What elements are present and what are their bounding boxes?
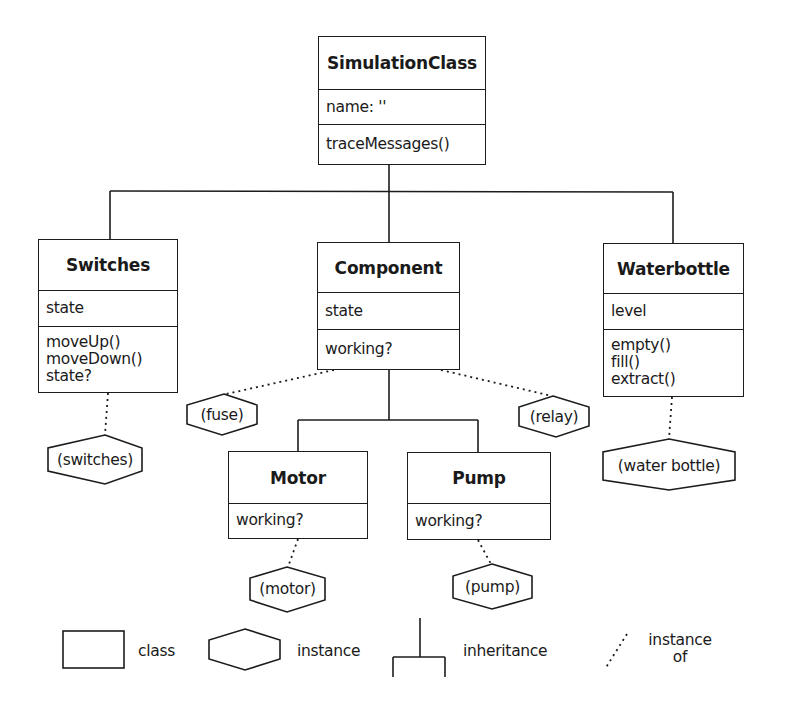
class-title: Component xyxy=(318,243,459,293)
method: state? xyxy=(46,368,177,385)
class-title: SimulationClass xyxy=(319,37,485,90)
attribute: state xyxy=(46,300,177,317)
method: moveDown() xyxy=(46,351,177,368)
class-title: Motor xyxy=(229,452,367,504)
method: fill() xyxy=(611,354,743,371)
instance-of-waterbottle xyxy=(669,397,672,439)
class-attributes: level xyxy=(604,294,743,330)
class-title: Waterbottle xyxy=(604,244,743,294)
instance-label-fuse: (fuse) xyxy=(187,404,257,425)
method: moveUp() xyxy=(46,334,177,351)
attribute: name: '' xyxy=(326,99,485,116)
class-methods: empty() fill() extract() xyxy=(604,330,743,395)
instance-of-pump xyxy=(478,540,491,564)
method: working? xyxy=(325,341,459,358)
instance-of-relay xyxy=(441,370,552,396)
class-attributes: state xyxy=(39,291,177,327)
instance-label-relay: (relay) xyxy=(519,406,589,427)
instance-of-switches xyxy=(105,393,108,435)
class-component: Component state working? xyxy=(317,242,460,370)
legend-class-rect xyxy=(63,631,124,668)
class-title: Switches xyxy=(39,240,177,291)
method: traceMessages() xyxy=(326,136,485,153)
class-waterbottle: Waterbottle level empty() fill() extract… xyxy=(603,243,744,397)
attribute: level xyxy=(611,303,743,320)
class-methods: moveUp() moveDown() state? xyxy=(39,327,177,391)
class-methods: working? xyxy=(229,504,367,537)
class-switches: Switches state moveUp() moveDown() state… xyxy=(38,239,178,393)
class-attributes: name: '' xyxy=(319,90,485,125)
legend-inheritance-label: inheritance xyxy=(463,643,547,660)
legend-class-label: class xyxy=(138,643,175,660)
method: empty() xyxy=(611,337,743,354)
class-attributes: state xyxy=(318,293,459,330)
instance-label-switches: (switches) xyxy=(48,448,142,471)
class-title: Pump xyxy=(408,453,550,504)
class-methods: traceMessages() xyxy=(319,125,485,163)
legend-instance-label: instance xyxy=(297,643,360,660)
legend-instance-of-line xyxy=(605,634,627,669)
class-pump: Pump working? xyxy=(407,452,551,540)
legend-instance-of-label: instance of xyxy=(644,632,716,666)
method: extract() xyxy=(611,371,743,388)
instance-label-pump: (pump) xyxy=(453,575,532,598)
inheritance-bar-top xyxy=(110,191,673,192)
instance-of-motor xyxy=(288,539,298,567)
instance-label-motor: (motor) xyxy=(250,578,325,600)
class-simulationclass: SimulationClass name: '' traceMessages() xyxy=(318,36,486,165)
instance-of-fuse xyxy=(226,370,334,394)
attribute: state xyxy=(325,303,459,320)
legend-instance-of-line1: instance xyxy=(644,632,716,649)
class-motor: Motor working? xyxy=(228,451,368,539)
legend-instance-hexagon xyxy=(209,629,280,670)
class-methods: working? xyxy=(318,330,459,368)
method: working? xyxy=(236,512,367,529)
method: working? xyxy=(415,513,550,530)
legend-instance-of-line2: of xyxy=(644,649,716,666)
instance-label-waterbottle: (water bottle) xyxy=(603,452,735,480)
class-methods: working? xyxy=(408,504,550,538)
